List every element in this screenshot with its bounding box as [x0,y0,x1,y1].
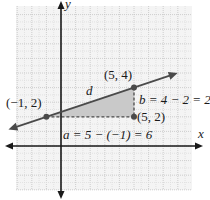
coordinate-plane: x y (−1, 2) (5, 4) (5, 2) d a = 5 − (−1)… [0,0,210,200]
point-label-5-4: (5, 4) [104,67,132,82]
x-axis-label: x [197,126,204,141]
point-5-4 [131,85,137,91]
y-axis-label: y [63,0,71,11]
vertical-leg-label: b = 4 − 2 = 2 [139,92,210,107]
point-label-neg1-2: (−1, 2) [6,95,42,110]
distance-label-d: d [86,83,93,98]
y-axis-arrow-down-icon [58,191,65,199]
x-axis-arrow-right-icon [195,143,203,150]
point-label-5-2: (5, 2) [137,109,165,124]
point-neg1-2 [43,114,49,120]
x-axis-arrow-left-icon [5,143,13,150]
y-axis-arrow-up-icon [58,1,65,9]
horizontal-leg-label: a = 5 − (−1) = 6 [63,127,153,142]
